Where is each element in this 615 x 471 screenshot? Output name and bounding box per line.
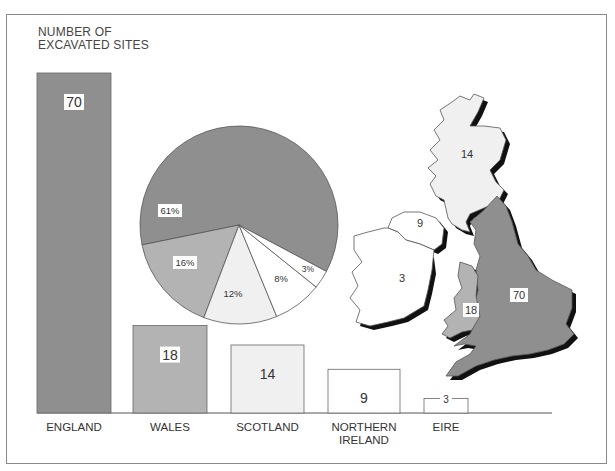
pie-value-label: 8%: [274, 273, 288, 284]
pie-value-label: 16%: [175, 257, 195, 268]
bar-value-label: 14: [260, 366, 276, 382]
bar-category-label: EIRE: [391, 421, 501, 434]
bar-wales: [133, 326, 207, 413]
bar-category-label: ENGLAND: [19, 421, 129, 434]
map-label-england: 70: [513, 289, 525, 301]
map-label-eire: 3: [399, 272, 405, 284]
bar-category-label: WALES: [115, 421, 225, 434]
map-label-wales: 18: [465, 304, 477, 316]
pie-value-label: 3%: [302, 264, 315, 274]
bar-value-label: 3: [443, 394, 449, 405]
map-label-scotland: 14: [461, 148, 473, 160]
pie-value-label: 61%: [160, 205, 180, 216]
bar-value-label: 9: [360, 390, 368, 406]
chart-canvas: 70181493 61%16%12%8%3% 14 70 18 9 3: [0, 0, 615, 471]
bar-england: [37, 73, 111, 413]
bar-category-label: SCOTLAND: [213, 421, 323, 434]
pie-chart: 61%16%12%8%3%: [140, 126, 338, 324]
pie-value-label: 12%: [223, 288, 243, 299]
map-region-wales: [442, 262, 480, 338]
british-isles-map: 14 70 18 9 3: [350, 94, 578, 380]
map-label-northern-ireland: 9: [417, 217, 423, 229]
bar-value-label: 18: [162, 347, 178, 363]
bar-value-label: 70: [66, 94, 82, 110]
